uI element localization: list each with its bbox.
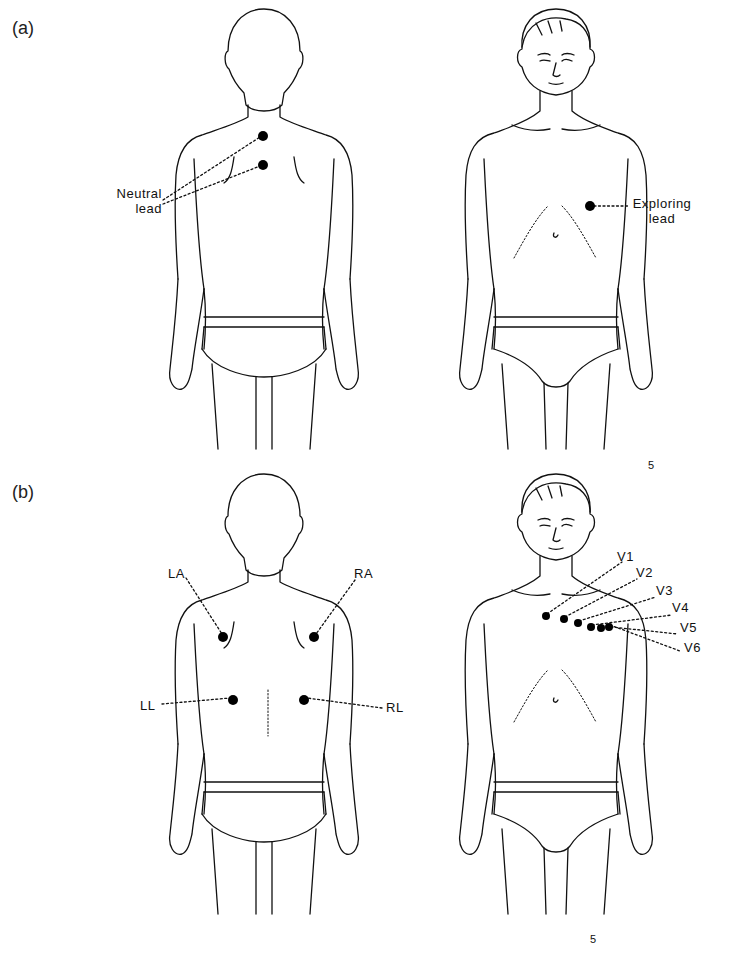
electrode-la bbox=[218, 632, 228, 642]
electrode-exploring bbox=[585, 201, 595, 211]
label-ll: LL bbox=[140, 698, 155, 713]
leader-lines-a bbox=[163, 137, 628, 206]
label-la: LA bbox=[168, 566, 185, 581]
electrode-v4 bbox=[587, 623, 595, 631]
figure-a-front-view bbox=[460, 9, 653, 449]
label-v3: V3 bbox=[656, 583, 673, 598]
label-v5: V5 bbox=[680, 620, 697, 635]
label-rl: RL bbox=[386, 700, 404, 715]
electrode-ll bbox=[228, 695, 238, 705]
figure-b-front-view bbox=[460, 474, 653, 914]
label-v4: V4 bbox=[672, 600, 689, 615]
electrode-v6 bbox=[605, 623, 613, 631]
electrode-v2 bbox=[560, 615, 568, 623]
electrode-neutral-2 bbox=[258, 160, 268, 170]
label-v2: V2 bbox=[636, 565, 653, 580]
figure-a-back-view bbox=[170, 9, 359, 449]
leader-lines-b bbox=[162, 562, 680, 708]
artist-mark-b: 5 bbox=[590, 932, 597, 947]
panel-label-b: (b) bbox=[12, 482, 34, 503]
electrode-v1 bbox=[542, 612, 550, 620]
electrode-neutral-1 bbox=[258, 131, 268, 141]
label-v1: V1 bbox=[617, 549, 634, 564]
electrode-v3 bbox=[574, 619, 582, 627]
figure-b-back-view bbox=[170, 474, 359, 914]
electrode-rl bbox=[299, 695, 309, 705]
label-ra: RA bbox=[354, 566, 373, 581]
neutral-lead-label: Neutral lead bbox=[100, 186, 162, 216]
electrode-v5 bbox=[597, 624, 605, 632]
panel-label-a: (a) bbox=[12, 18, 34, 39]
artist-mark-a: 5 bbox=[648, 458, 655, 473]
ecg-lead-placement-diagram bbox=[0, 0, 731, 956]
label-v6: V6 bbox=[684, 640, 701, 655]
exploring-lead-label: Exploring lead bbox=[626, 196, 698, 226]
electrode-ra bbox=[309, 632, 319, 642]
